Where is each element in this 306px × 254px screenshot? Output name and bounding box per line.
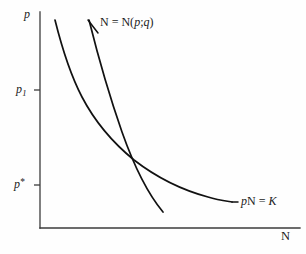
demand-label-equals: = [109, 15, 122, 29]
demand-label-lhs: N [100, 15, 109, 29]
y-tick-label-pstar-superscript: * [20, 177, 25, 187]
economics-figure: p N p1 p* N = N(p;q) pN = K [0, 0, 306, 254]
plot-canvas [0, 0, 306, 254]
revenue-label-n: N [247, 194, 256, 208]
y-tick-label-pstar: p* [14, 178, 25, 191]
revenue-label-equals: = [256, 194, 269, 208]
y-tick-label-p1-subscript: 1 [22, 88, 26, 98]
y-axis-label: p [24, 8, 30, 20]
y-tick-label-p1: p1 [16, 83, 26, 95]
demand-label-function: N( [121, 15, 134, 29]
revenue-label-k: K [268, 194, 276, 208]
demand-label-leader-line [88, 20, 98, 33]
demand-curve [89, 20, 163, 212]
revenue-curve-label: pN = K [241, 195, 276, 207]
x-axis-label: N [281, 230, 290, 243]
revenue-hyperbola-curve [55, 20, 232, 202]
demand-curve-label: N = N(p;q) [100, 16, 153, 28]
demand-label-close-paren: ) [149, 15, 153, 29]
